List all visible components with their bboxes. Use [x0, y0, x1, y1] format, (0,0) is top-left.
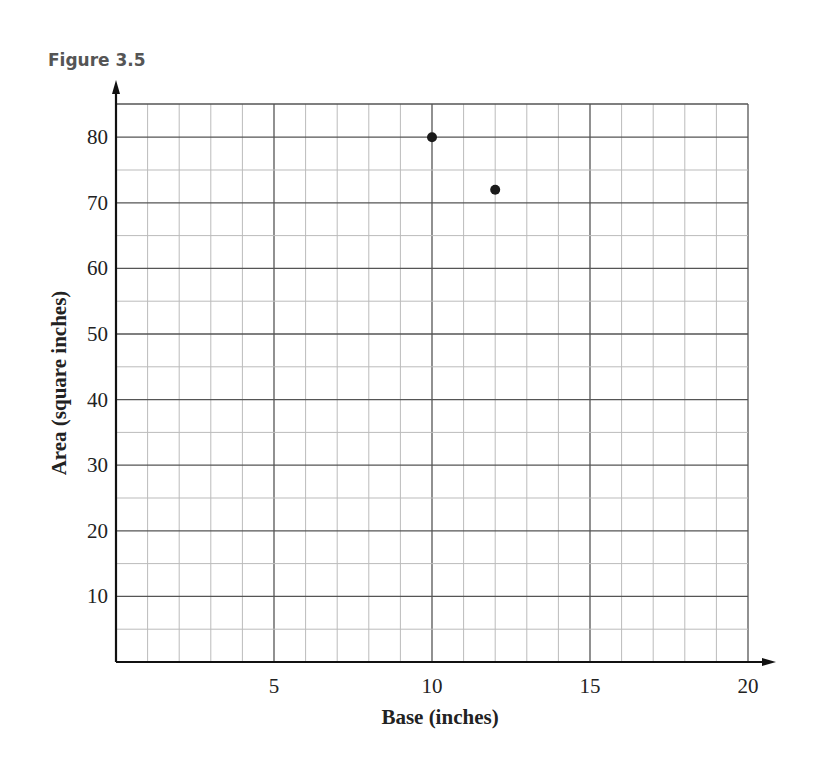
svg-text:80: 80	[87, 125, 108, 149]
grid-lines	[116, 104, 748, 662]
svg-text:50: 50	[87, 322, 108, 346]
y-axis-label: Area (square inches)	[47, 291, 71, 476]
svg-text:60: 60	[87, 256, 108, 280]
svg-text:20: 20	[738, 674, 759, 698]
svg-text:20: 20	[87, 519, 108, 543]
svg-text:15: 15	[580, 674, 601, 698]
data-point	[490, 185, 500, 195]
svg-text:30: 30	[87, 453, 108, 477]
scatter-chart: 51015201020304050607080 Base (inches) Ar…	[0, 0, 814, 772]
axes	[112, 80, 776, 666]
svg-text:10: 10	[87, 584, 108, 608]
data-point	[427, 132, 437, 142]
x-axis-label: Base (inches)	[381, 705, 498, 729]
svg-text:40: 40	[87, 388, 108, 412]
svg-text:70: 70	[87, 191, 108, 215]
tick-labels: 51015201020304050607080	[87, 125, 759, 698]
svg-text:5: 5	[269, 674, 280, 698]
svg-text:10: 10	[422, 674, 443, 698]
